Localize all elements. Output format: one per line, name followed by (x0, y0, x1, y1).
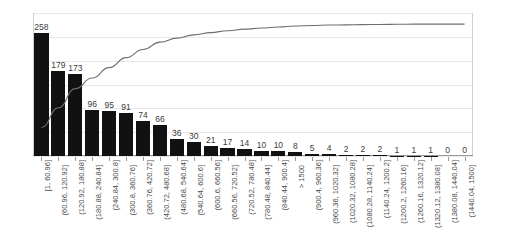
bar (187, 142, 201, 156)
x-axis-tick-mark (245, 157, 246, 161)
x-axis-tick-mark (58, 157, 59, 161)
bar-value-label: 0 (445, 146, 450, 155)
x-axis-tick-mark (109, 157, 110, 161)
x-axis-tick-label: (960.36, 1020.32] (332, 165, 340, 224)
bar-value-label: 91 (121, 103, 130, 112)
bar-slot: 10 (253, 13, 270, 156)
bar-slot: 1 (422, 13, 439, 156)
bar (220, 148, 234, 156)
bar-value-label: 2 (378, 145, 383, 154)
bar-slot: 17 (219, 13, 236, 156)
bar-slot: 2 (371, 13, 388, 156)
x-axis-tick-mark (261, 157, 262, 161)
bar (102, 111, 116, 156)
bar (34, 33, 48, 156)
x-axis-tick-mark (397, 157, 398, 161)
bar-slot: 10 (270, 13, 287, 156)
bar-value-label: 17 (223, 138, 232, 147)
pareto-chart: 2581791739695917466363021171410108542221… (0, 0, 505, 245)
x-axis-tick-label: (1200.2, 1260.16] (400, 165, 408, 224)
x-axis-tick-mark (295, 157, 296, 161)
x-axis-tick-label: (600.6, 660.56] (214, 160, 222, 210)
bar (356, 155, 370, 156)
bar-value-label: 173 (68, 64, 82, 73)
x-axis-tick-mark (465, 157, 466, 161)
x-axis-tick-mark (126, 157, 127, 161)
x-axis-tick-label: (360.76, 420.72] (146, 160, 154, 215)
x-axis-tick-label: (1080.28, 1140.24] (366, 165, 374, 227)
bar-value-label: 14 (240, 139, 249, 148)
bar (237, 149, 251, 156)
x-axis-tick-label: (1020.32, 1080.28] (349, 160, 357, 223)
bar-slot: 96 (84, 13, 101, 156)
bar-value-label: 66 (155, 115, 164, 124)
x-axis-tick-mark (380, 157, 381, 161)
x-axis-tick-label: (900.4, 960.36] (315, 160, 323, 210)
bar-slot: 2 (338, 13, 355, 156)
x-axis-tick-label: (1380.08, 1440.04] (451, 160, 459, 223)
bar-value-label: 96 (87, 100, 96, 109)
x-axis-tick-label: (1440.04, 1500] (468, 165, 476, 218)
bar (85, 110, 99, 156)
bar-value-label: 74 (138, 111, 147, 120)
x-axis-tick-mark (346, 157, 347, 161)
bar-slot: 95 (101, 13, 118, 156)
x-axis-tick-label: (60.96, 120.92] (61, 165, 69, 215)
bar (322, 154, 336, 156)
bar-slot: 5 (304, 13, 321, 156)
bar-slot: 258 (33, 13, 50, 156)
x-axis-tick-mark (431, 157, 432, 161)
x-axis-tick-mark (414, 157, 415, 161)
x-axis-tick-mark (211, 157, 212, 161)
x-axis-tick-label: (180.88, 240.84] (95, 165, 103, 220)
x-axis-tick-mark (228, 157, 229, 161)
x-axis-tick-label: (240.84, 300.8] (112, 160, 120, 210)
x-axis-tick-label: (120.92, 180.88] (78, 160, 86, 215)
bar-slot: 14 (236, 13, 253, 156)
bar (339, 155, 353, 156)
bar-slot: 0 (439, 13, 456, 156)
x-axis-tick-label: (1260.16, 1320.12] (417, 160, 425, 223)
bar-slot: 4 (321, 13, 338, 156)
x-axis-tick-label: > 1500 (298, 165, 306, 188)
bar-value-label: 95 (104, 101, 113, 110)
bar-value-label: 0 (462, 146, 467, 155)
bar-value-label: 2 (361, 145, 366, 154)
x-axis-tick-label: (1320.12, 1380.08] (434, 165, 442, 228)
x-axis-tick-label: (480.68, 540.64] (180, 160, 188, 215)
bar (170, 139, 184, 156)
bar-slot: 74 (135, 13, 152, 156)
bar-value-label: 1 (411, 146, 416, 155)
bar-value-label: 258 (34, 23, 48, 32)
x-axis-labels: [1, 60.96](60.96, 120.92](120.92, 180.88… (33, 157, 473, 245)
bar-value-label: 4 (327, 144, 332, 153)
x-axis-tick-mark (363, 157, 364, 161)
x-axis-tick-mark (329, 157, 330, 161)
x-axis-tick-label: (300.8, 360.76] (129, 165, 137, 215)
bar (305, 154, 319, 156)
x-axis-tick-label: [1, 60.96] (44, 160, 52, 191)
x-axis-tick-mark (177, 157, 178, 161)
bar-value-label: 10 (274, 141, 283, 150)
bar-value-label: 8 (293, 142, 298, 151)
x-axis-tick-label: (1140.24, 1200.2] (383, 160, 391, 218)
bar-slot: 1 (405, 13, 422, 156)
bar (51, 71, 65, 156)
x-axis-tick-mark (160, 157, 161, 161)
x-axis-tick-label: (780.48, 840.44] (264, 165, 272, 220)
x-axis-tick-label: (420.72, 480.68] (163, 165, 171, 220)
bar-value-label: 1 (394, 146, 399, 155)
bar (136, 121, 150, 156)
x-axis-tick-label: (660.56, 720.52] (231, 165, 239, 220)
bar-value-label: 179 (51, 61, 65, 70)
bar-value-label: 2 (344, 145, 349, 154)
x-axis-tick-mark (194, 157, 195, 161)
bar-value-label: 1 (428, 146, 433, 155)
bar-slot: 30 (185, 13, 202, 156)
bar-slot: 21 (202, 13, 219, 156)
bar-slot: 8 (287, 13, 304, 156)
x-axis-tick-mark (143, 157, 144, 161)
x-axis-tick-label: (540.64, 600.6] (197, 165, 205, 215)
bar-slot: 179 (50, 13, 67, 156)
bar (288, 152, 302, 156)
